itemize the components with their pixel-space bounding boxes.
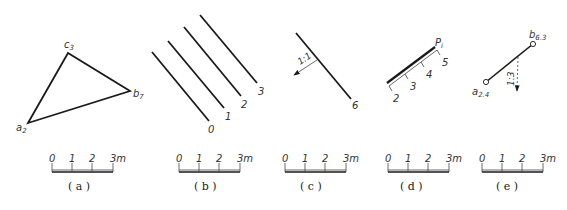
contour-3 <box>200 15 257 83</box>
caption-c: ( c ) <box>300 180 322 193</box>
tick-label-5: 5 <box>442 57 448 68</box>
scale-tick-3: 3m <box>446 153 462 164</box>
tick-3 <box>405 74 408 79</box>
scale-bar-d: 0 1 2 3m <box>385 153 462 172</box>
scale-tick-2: 2 <box>425 153 431 164</box>
tick-label-3: 3 <box>410 81 416 92</box>
slope-label-e: 1:3 <box>506 71 516 86</box>
panel-e: 1:3 a2.4 b6.3 <box>472 29 547 99</box>
contour-1 <box>168 41 224 108</box>
scale-bar-b: 0 1 2 3m <box>176 153 253 172</box>
panel-d: 2 3 4 5 Pi <box>387 37 448 104</box>
scale-tick-1: 1 <box>405 153 411 164</box>
scale-tick-3: 3m <box>343 153 359 164</box>
contour-label-1: 1 <box>225 111 231 122</box>
tick-4 <box>421 62 424 67</box>
scale-tick-0: 0 <box>385 153 391 164</box>
scale-bar-e: 0 1 2 3m <box>479 153 556 172</box>
scale-tick-1: 1 <box>302 153 308 164</box>
scale-tick-2: 2 <box>519 153 525 164</box>
contour-2 <box>184 27 241 96</box>
scale-tick-3: 3m <box>237 153 253 164</box>
scale-tick-0: 0 <box>479 153 485 164</box>
scale-tick-3: 3m <box>540 153 556 164</box>
triangle-abc <box>28 53 130 123</box>
caption-d: ( d ) <box>400 180 423 193</box>
scale-tick-1: 1 <box>499 153 505 164</box>
caption-a: ( a ) <box>68 180 90 193</box>
panel-c: 1:1 6 <box>294 33 358 111</box>
scale-tick-1: 1 <box>196 153 202 164</box>
label-b7: b7 <box>133 88 144 101</box>
contour-label-6: 6 <box>352 100 358 111</box>
scale-tick-2: 2 <box>216 153 222 164</box>
scale-tick-2: 2 <box>89 153 95 164</box>
tick-5 <box>437 50 440 55</box>
diagram-canvas: a2 b7 c3 0 1 2 3 1:1 6 2 3 4 5 Pi <box>0 0 567 210</box>
contour-label-0: 0 <box>208 124 214 135</box>
scale-tick-0: 0 <box>176 153 182 164</box>
contour-label-2: 2 <box>241 99 247 110</box>
scale-tick-3: 3m <box>110 153 126 164</box>
point-a <box>483 79 488 84</box>
contour-0 <box>152 52 209 121</box>
caption-b: ( b ) <box>194 180 217 193</box>
contour-label-3: 3 <box>258 86 264 97</box>
tick-2 <box>389 86 392 91</box>
scale-tick-0: 0 <box>49 153 55 164</box>
plane-label: Pi <box>435 37 443 50</box>
tick-label-2: 2 <box>393 93 399 104</box>
scale-bar-a: 0 1 2 3m <box>49 153 126 172</box>
label-a24: a2.4 <box>472 86 489 99</box>
caption-e: ( e ) <box>496 180 518 193</box>
label-a2: a2 <box>16 122 27 135</box>
contour-6 <box>296 33 351 99</box>
scale-tick-2: 2 <box>322 153 328 164</box>
point-b <box>530 41 535 46</box>
panel-a: a2 b7 c3 <box>16 39 144 135</box>
slope-arrow-e <box>517 57 518 91</box>
scale-bar-c: 0 1 2 3m <box>282 153 359 172</box>
label-c3: c3 <box>64 39 74 52</box>
panel-b: 0 1 2 3 <box>152 15 264 135</box>
scale-tick-0: 0 <box>282 153 288 164</box>
tick-label-4: 4 <box>426 69 432 80</box>
scale-tick-1: 1 <box>69 153 75 164</box>
label-b63: b6.3 <box>529 29 547 42</box>
